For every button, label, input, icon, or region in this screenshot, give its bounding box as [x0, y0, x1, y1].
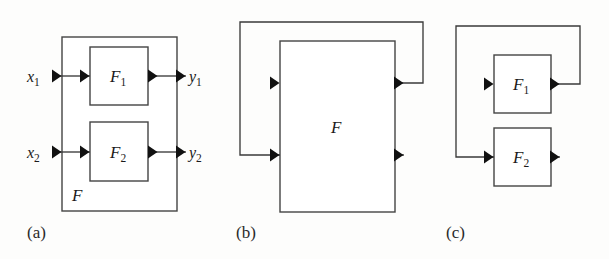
panel-c-arrow-f1-inlet [484, 78, 494, 91]
panel-b-arrow-input-lower [270, 149, 280, 162]
panel-a-label-outer-f: F [71, 186, 83, 205]
panel-b: F (b) [236, 22, 423, 242]
panel-b-label-f: F [330, 118, 342, 137]
panel-c: F1 F2 (c) [446, 26, 580, 242]
panel-b-arrow-input-upper [270, 77, 280, 90]
panel-c-arrow-f1-outlet [550, 78, 560, 91]
panel-b-arrow-output-lower [394, 149, 404, 162]
panel-a-caption: (a) [27, 223, 46, 242]
panel-a-arrow-y1-outlet [176, 70, 186, 83]
figure-root: F1 F2 F x1 x2 y1 y2 (a) [0, 0, 609, 259]
panel-a-arrow-x1-inlet [52, 70, 62, 83]
panel-a-output-label-y1: y1 [187, 68, 202, 88]
panel-a-output-label-y2: y2 [187, 144, 202, 164]
panel-c-caption: (c) [446, 223, 465, 242]
panel-b-caption: (b) [236, 223, 256, 242]
panel-b-arrow-output-upper [394, 77, 404, 90]
panel-a-arrow-y2-outlet [176, 146, 186, 159]
panel-c-arrow-f2-outlet [550, 151, 560, 164]
panel-a-input-label-x1: x1 [26, 68, 40, 88]
panel-a: F1 F2 F x1 x2 y1 y2 (a) [26, 37, 202, 242]
block-diagram-svg: F1 F2 F x1 x2 y1 y2 (a) [0, 0, 609, 259]
panel-a-input-label-x2: x2 [26, 144, 40, 164]
panel-c-arrow-f2-inlet [484, 151, 494, 164]
panel-a-arrow-x2-inlet [52, 146, 62, 159]
